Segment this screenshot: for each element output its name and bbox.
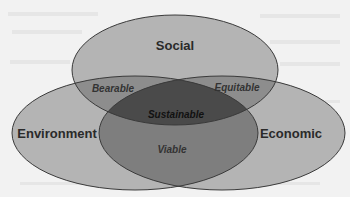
viable-label: Viable xyxy=(157,144,187,155)
sustainable-label: Sustainable xyxy=(148,109,205,120)
social-label: Social xyxy=(156,38,194,53)
venn-diagram-canvas: Social Environment Economic Bearable Equ… xyxy=(0,0,350,197)
bearable-label: Bearable xyxy=(92,83,135,94)
economic-label: Economic xyxy=(260,126,322,141)
environment-label: Environment xyxy=(17,126,97,141)
equitable-label: Equitable xyxy=(214,82,259,93)
venn-svg: Social Environment Economic Bearable Equ… xyxy=(0,0,350,197)
